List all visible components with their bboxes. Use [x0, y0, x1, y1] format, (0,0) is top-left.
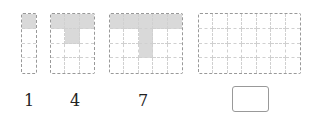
empty-cell — [213, 29, 227, 44]
empty-cell — [228, 29, 242, 44]
empty-cell — [124, 29, 138, 44]
empty-cell — [168, 44, 182, 59]
empty-cell — [271, 58, 285, 73]
empty-cell — [51, 58, 65, 73]
filled-cell — [65, 29, 79, 44]
filled-cell — [80, 14, 94, 29]
empty-cell — [80, 58, 94, 73]
empty-cell — [271, 14, 285, 29]
answer-box[interactable] — [232, 86, 269, 112]
empty-cell — [139, 58, 153, 73]
filled-cell — [65, 14, 79, 29]
filled-cell — [168, 14, 182, 29]
filled-cell — [51, 14, 65, 29]
empty-cell — [153, 58, 167, 73]
empty-cell — [242, 44, 256, 59]
empty-cell — [51, 29, 65, 44]
empty-cell — [199, 58, 213, 73]
empty-cell — [124, 58, 138, 73]
filled-cell — [110, 14, 124, 29]
pattern-figure-2 — [50, 13, 95, 74]
empty-cell — [286, 29, 300, 44]
empty-cell — [168, 29, 182, 44]
filled-cell — [153, 14, 167, 29]
empty-cell — [199, 44, 213, 59]
filled-cell — [139, 44, 153, 59]
empty-cell — [153, 44, 167, 59]
empty-cell — [257, 29, 271, 44]
empty-cell — [51, 44, 65, 59]
empty-cell — [80, 29, 94, 44]
pattern-figure-4-empty — [198, 13, 301, 74]
pattern-figure-3 — [109, 13, 183, 74]
empty-cell — [228, 14, 242, 29]
empty-cell — [286, 44, 300, 59]
filled-cell — [139, 29, 153, 44]
empty-cell — [22, 44, 36, 59]
filled-cell — [22, 14, 36, 29]
empty-cell — [213, 44, 227, 59]
empty-cell — [257, 44, 271, 59]
filled-cell — [124, 14, 138, 29]
figure-3-count-label: 7 — [133, 91, 153, 110]
empty-cell — [65, 58, 79, 73]
figure-1-count-label: 1 — [19, 91, 39, 110]
empty-cell — [242, 14, 256, 29]
empty-cell — [199, 14, 213, 29]
empty-cell — [110, 44, 124, 59]
empty-cell — [271, 29, 285, 44]
empty-cell — [213, 14, 227, 29]
empty-cell — [213, 58, 227, 73]
empty-cell — [110, 58, 124, 73]
empty-cell — [286, 58, 300, 73]
empty-cell — [110, 29, 124, 44]
empty-cell — [257, 58, 271, 73]
empty-cell — [228, 44, 242, 59]
empty-cell — [228, 58, 242, 73]
empty-cell — [65, 44, 79, 59]
empty-cell — [242, 29, 256, 44]
empty-cell — [168, 58, 182, 73]
empty-cell — [22, 29, 36, 44]
pattern-figure-1 — [21, 13, 37, 74]
empty-cell — [22, 58, 36, 73]
empty-cell — [199, 29, 213, 44]
figure-2-count-label: 4 — [65, 91, 85, 110]
filled-cell — [139, 14, 153, 29]
empty-cell — [124, 44, 138, 59]
empty-cell — [80, 44, 94, 59]
empty-cell — [286, 14, 300, 29]
empty-cell — [271, 44, 285, 59]
empty-cell — [257, 14, 271, 29]
empty-cell — [242, 58, 256, 73]
empty-cell — [153, 29, 167, 44]
